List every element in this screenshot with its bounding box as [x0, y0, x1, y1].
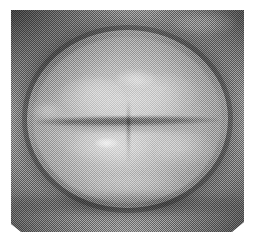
chin-shadow [11, 196, 244, 212]
page-margin-right [244, 0, 254, 240]
center-crease-upper [127, 99, 130, 119]
page-margin-bottom [0, 232, 254, 240]
lower-lip-specular-highlight [95, 138, 118, 148]
upper-lip-highlight [116, 70, 156, 88]
page-canvas [0, 0, 254, 240]
page-margin-top [0, 0, 254, 10]
photograph-plate [11, 10, 244, 232]
page-margin-left [0, 0, 11, 240]
left-corner-glint-highlight [32, 103, 62, 119]
upper-lip-left-lobe [60, 77, 125, 115]
